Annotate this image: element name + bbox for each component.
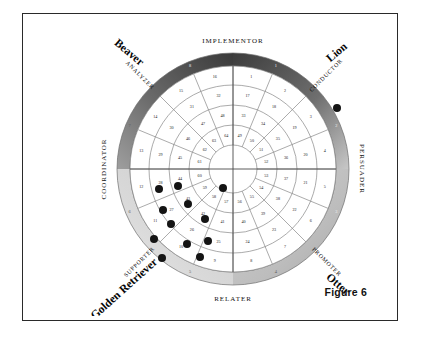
response-dot bbox=[204, 237, 212, 245]
wheel-svg: 1234567891011121314151617181920212223242… bbox=[83, 36, 383, 316]
segment-number: 24 bbox=[245, 239, 249, 244]
animal-label-golden-retriever: Golden Retriever bbox=[88, 255, 159, 316]
segment-number: 33 bbox=[241, 113, 245, 118]
segment-number: 39 bbox=[261, 211, 265, 216]
response-dot bbox=[174, 182, 182, 190]
segment-number: 25 bbox=[217, 239, 221, 244]
segment-number: 17 bbox=[245, 93, 249, 98]
figure-caption: Figure 6 bbox=[325, 286, 367, 298]
segment-number: 54 bbox=[259, 185, 263, 190]
axis-label-implementor: IMPLEMENTOR bbox=[202, 37, 263, 45]
segment-number: 3 bbox=[310, 114, 312, 119]
axis-label-persuader: PERSUADER bbox=[358, 144, 366, 194]
segment-number: 20 bbox=[304, 152, 308, 157]
segment-number: 31 bbox=[190, 104, 194, 109]
segment-number: 19 bbox=[292, 125, 296, 130]
segment-number: 41 bbox=[220, 219, 224, 224]
segment-number: 35 bbox=[276, 136, 280, 141]
band-number: 1 bbox=[275, 63, 277, 68]
response-dot bbox=[219, 184, 227, 192]
segment-number: 61 bbox=[198, 159, 202, 164]
segment-number: 27 bbox=[169, 207, 173, 212]
segment-number: 10 bbox=[179, 244, 183, 249]
segment-number: 40 bbox=[241, 219, 245, 224]
axis-label-relater: RELATER bbox=[214, 295, 252, 303]
segment-number: 56 bbox=[238, 199, 242, 204]
segment-number: 5 bbox=[324, 184, 326, 189]
segment-number: 58 bbox=[212, 194, 216, 199]
response-dot bbox=[333, 104, 341, 112]
segment-number: 55 bbox=[250, 194, 254, 199]
segment-number: 49 bbox=[238, 133, 242, 138]
segment-number: 12 bbox=[139, 184, 143, 189]
segment-number: 63 bbox=[212, 138, 216, 143]
segment-number: 47 bbox=[201, 121, 205, 126]
figure-frame: 1234567891011121314151617181920212223242… bbox=[22, 13, 398, 321]
segment-number: 1 bbox=[250, 74, 252, 79]
segment-number: 48 bbox=[220, 113, 224, 118]
segment-number: 59 bbox=[203, 185, 207, 190]
segment-number: 53 bbox=[264, 173, 268, 178]
segment-number: 2 bbox=[284, 88, 286, 93]
response-dot bbox=[158, 254, 166, 262]
segment-number: 28 bbox=[158, 180, 162, 185]
disc-wheel-chart: 1234567891011121314151617181920212223242… bbox=[83, 36, 383, 316]
segment-number: 6 bbox=[310, 218, 312, 223]
segment-number: 4 bbox=[324, 148, 326, 153]
segment-number: 52 bbox=[264, 159, 268, 164]
segment-number: 9 bbox=[214, 258, 216, 263]
segment-number: 29 bbox=[158, 152, 162, 157]
segment-number: 13 bbox=[139, 148, 143, 153]
segment-number: 11 bbox=[153, 218, 157, 223]
segment-number: 14 bbox=[153, 114, 157, 119]
segment-number: 46 bbox=[186, 136, 190, 141]
response-dot bbox=[150, 235, 158, 243]
segment-number: 26 bbox=[190, 227, 194, 232]
segment-number: 37 bbox=[284, 176, 288, 181]
response-dot bbox=[155, 185, 163, 193]
response-dot bbox=[201, 215, 209, 223]
segment-number: 64 bbox=[224, 133, 228, 138]
role-label-promoter: PROMOTER bbox=[311, 246, 343, 278]
segment-number: 60 bbox=[198, 173, 202, 178]
response-dot bbox=[167, 220, 175, 228]
segment-number: 45 bbox=[178, 155, 182, 160]
segment-number: 15 bbox=[179, 88, 183, 93]
segment-number: 23 bbox=[272, 227, 276, 232]
segment-number: 7 bbox=[284, 244, 286, 249]
axis-label-coordinator: COORDINATOR bbox=[100, 138, 108, 199]
segment-number: 22 bbox=[292, 207, 296, 212]
segment-number: 34 bbox=[261, 121, 265, 126]
ring-grid bbox=[130, 66, 336, 272]
response-dot bbox=[184, 200, 192, 208]
band-number: 2 bbox=[335, 123, 337, 128]
segment-number: 16 bbox=[213, 74, 217, 79]
segment-number: 32 bbox=[217, 93, 221, 98]
figure-page: 1234567891011121314151617181920212223242… bbox=[0, 0, 421, 340]
segment-number: 51 bbox=[259, 147, 263, 152]
response-dot bbox=[159, 206, 167, 214]
segment-number: 38 bbox=[276, 196, 280, 201]
segment-number: 18 bbox=[272, 104, 276, 109]
response-dot bbox=[183, 240, 191, 248]
segment-number: 21 bbox=[304, 180, 308, 185]
segment-number: 8 bbox=[250, 258, 252, 263]
segment-number: 62 bbox=[203, 147, 207, 152]
segment-number: 57 bbox=[224, 199, 228, 204]
role-label-conductor: CONDUCTOR bbox=[308, 58, 343, 93]
segment-number: 50 bbox=[250, 138, 254, 143]
segment-number: 44 bbox=[178, 176, 182, 181]
response-dot bbox=[196, 253, 204, 261]
segment-number: 36 bbox=[284, 155, 288, 160]
segment-number: 30 bbox=[169, 125, 173, 130]
